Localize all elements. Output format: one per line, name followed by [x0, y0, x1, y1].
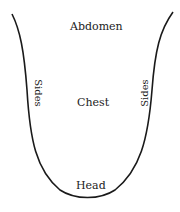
chest-label: Chest: [77, 97, 109, 108]
body-orientation-diagram: Abdomen Chest Head Sides Sides: [0, 0, 180, 212]
right-sides-label: Sides: [140, 79, 150, 107]
left-sides-label: Sides: [33, 79, 43, 107]
head-label: Head: [76, 180, 106, 191]
abdomen-label: Abdomen: [70, 21, 123, 32]
